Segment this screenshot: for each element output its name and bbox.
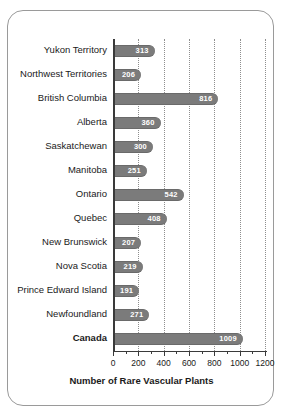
tick-minor-900 [227,351,228,354]
bar-value-label: 313 [136,46,149,55]
tick-label-1200: 1200 [256,358,275,368]
tick-minor-700 [202,351,203,354]
bar-value-label: 207 [122,238,135,247]
bar-row: Nova Scotia219 [8,255,275,279]
bar-row: Yukon Territory313 [8,39,275,63]
tick-minor-100 [126,351,127,354]
tick-label-0: 0 [111,358,116,368]
bar-value-label: 191 [120,286,133,295]
bar-value-label: 542 [165,190,178,199]
bar-row: Prince Edward Island191 [8,279,275,303]
category-label: New Brunswick [0,236,107,247]
tick-label-800: 800 [207,358,221,368]
category-label: Prince Edward Island [0,284,107,295]
bar-row: Newfoundland271 [8,303,275,327]
bar-value-label: 219 [124,262,137,271]
category-label: Quebec [0,212,107,223]
category-label: Ontario [0,188,107,199]
bar-value-label: 206 [122,70,135,79]
bar-value-label: 271 [130,310,143,319]
tick-600 [189,351,190,356]
category-label: Alberta [0,116,107,127]
tick-1000 [240,351,241,356]
tick-label-600: 600 [182,358,196,368]
bar-value-label: 408 [148,214,161,223]
bar-row: British Columbia816 [8,87,275,111]
category-label: British Columbia [0,92,107,103]
category-label: Nova Scotia [0,260,107,271]
bar-row: Ontario542 [8,183,275,207]
tick-minor-500 [176,351,177,354]
bar-row: Manitoba251 [8,159,275,183]
bar-value-label: 300 [134,142,147,151]
category-label: Yukon Territory [0,44,107,55]
category-label: Northwest Territories [0,68,107,79]
bar-value-label: 251 [128,166,141,175]
bar-value-label: 816 [199,94,212,103]
tick-400 [164,351,165,356]
tick-label-400: 400 [157,358,171,368]
tick-0 [113,351,114,356]
bar-row: New Brunswick207 [8,231,275,255]
bar-row: Saskatchewan300 [8,135,275,159]
chart-plot-area: 020040060080010001200 Yukon Territory313… [8,11,275,407]
tick-800 [214,351,215,356]
tick-minor-300 [151,351,152,354]
tick-label-1000: 1000 [230,358,249,368]
x-axis-line [113,351,267,352]
tick-1200 [265,351,266,356]
chart-card: 020040060080010001200 Yukon Territory313… [7,10,274,406]
tick-200 [138,351,139,356]
tick-label-200: 200 [131,358,145,368]
x-axis-title: Number of Rare Vascular Plants [8,375,275,386]
bar-value-label: 1009 [219,334,237,343]
bar-row: Alberta360 [8,111,275,135]
bar-row: Canada1009 [8,327,275,351]
bar-row: Quebec408 [8,207,275,231]
bar-row: Northwest Territories206 [8,63,275,87]
category-label: Newfoundland [0,308,107,319]
category-label: Saskatchewan [0,140,107,151]
category-label: Manitoba [0,164,107,175]
tick-minor-1100 [252,351,253,354]
bar-value-label: 360 [141,118,154,127]
category-label: Canada [0,332,107,343]
